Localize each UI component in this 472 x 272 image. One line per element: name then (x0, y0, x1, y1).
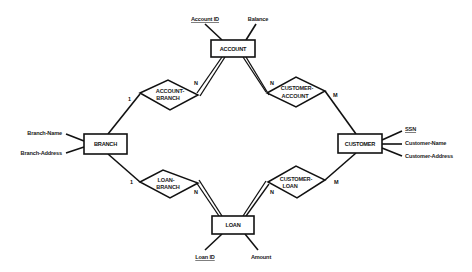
cardinality-label: N (194, 189, 198, 195)
relationship-connectors (108, 57, 356, 216)
relationship-account-branch[interactable]: ACCOUNT- BRANCH (140, 80, 198, 110)
relationship-label: BRANCH (156, 184, 179, 190)
er-diagram: ACCOUNT BRANCH CUSTOMER LOAN ACCOUNT- BR… (0, 0, 472, 272)
relationship-loan-branch[interactable]: LOAN- BRANCH (140, 170, 198, 198)
attribute-ssn: SSN (405, 126, 416, 132)
relationship-label: ACCOUNT- (156, 88, 185, 94)
cardinality-label: N (270, 189, 274, 195)
entity-customer[interactable]: CUSTOMER (338, 134, 382, 153)
relationship-label: LOAN (282, 183, 297, 189)
relationship-customer-loan[interactable]: CUSTOMER- LOAN (268, 166, 325, 198)
entity-label: BRANCH (94, 141, 117, 147)
entity-label: CUSTOMER (345, 141, 375, 147)
relationship-customer-account[interactable]: CUSTOMER- ACCOUNT (267, 77, 325, 107)
relationship-label: CUSTOMER- (280, 176, 313, 182)
cardinality-label: 1 (130, 179, 133, 185)
attribute-customer-name: Customer-Name (405, 140, 446, 146)
cardinality-label: 1 (128, 96, 131, 102)
cardinality-label: N (194, 80, 198, 86)
attribute-loan-id: Loan ID (195, 254, 215, 260)
attribute-branch-name: Branch-Name (27, 130, 62, 136)
entity-label: ACCOUNT (220, 46, 247, 52)
relationship-label: LOAN- (158, 177, 175, 183)
attribute-customer-address: Customer-Address (405, 153, 453, 159)
attribute-balance: Balance (248, 16, 268, 22)
relationship-label: ACCOUNT (282, 93, 310, 99)
cardinality-label: N (270, 80, 274, 86)
cardinality-label: M (333, 92, 338, 98)
relationship-label: BRANCH (156, 95, 179, 101)
entity-branch[interactable]: BRANCH (84, 134, 127, 154)
entity-label: LOAN (225, 222, 240, 228)
attribute-amount: Amount (251, 254, 272, 260)
relationship-label: CUSTOMER- (281, 85, 314, 91)
entity-loan[interactable]: LOAN (212, 216, 254, 234)
entity-account[interactable]: ACCOUNT (211, 40, 255, 57)
attribute-account-id: Account ID (191, 16, 219, 22)
cardinality-label: M (334, 179, 339, 185)
attribute-branch-address: Branch-Address (21, 150, 62, 156)
